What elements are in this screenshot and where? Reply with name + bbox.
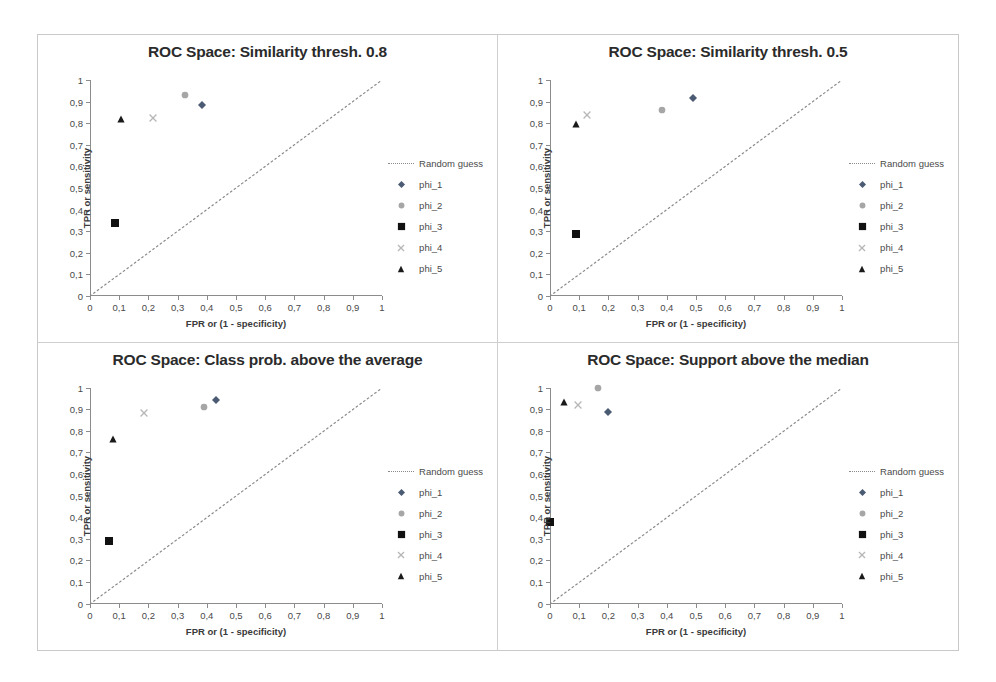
x-tick-label: 0,5 — [689, 302, 702, 313]
legend-item-phi_2[interactable]: phi_2 — [383, 195, 483, 216]
legend-label-random-guess: Random guess — [880, 466, 944, 477]
y-tick — [86, 582, 90, 583]
legend-item-phi_5[interactable]: phi_5 — [844, 258, 944, 279]
data-point-phi_2 — [200, 403, 208, 411]
random-guess-line — [550, 80, 842, 296]
x-tick — [813, 604, 814, 608]
legend-item-phi_4[interactable]: phi_4 — [844, 545, 944, 566]
chart-legend: Random guessphi_1phi_2phi_3phi_4phi_5 — [383, 153, 483, 279]
y-tick-label: 1 — [78, 75, 83, 86]
y-tick-label: 0,9 — [530, 404, 543, 415]
data-point-phi_4 — [148, 113, 157, 122]
dotted-line-icon — [383, 471, 419, 472]
y-tick — [86, 274, 90, 275]
y-tick — [546, 274, 550, 275]
cross-marker-icon — [383, 551, 419, 559]
legend-item-phi_3[interactable]: phi_3 — [844, 524, 944, 545]
x-tick — [207, 604, 208, 608]
legend-item-phi_1[interactable]: phi_1 — [383, 174, 483, 195]
legend-item-phi_3[interactable]: phi_3 — [844, 216, 944, 237]
x-tick-label: 1 — [839, 302, 844, 313]
x-tick — [90, 296, 91, 300]
x-axis-title: FPR or (1 - specificity) — [90, 318, 382, 329]
x-tick — [696, 604, 697, 608]
y-axis-title: TPR or sensitivity — [81, 148, 92, 228]
legend-item-phi_5[interactable]: phi_5 — [383, 258, 483, 279]
y-tick — [86, 539, 90, 540]
legend-item-random-guess[interactable]: Random guess — [844, 461, 944, 482]
legend-item-phi_2[interactable]: phi_2 — [844, 503, 944, 524]
y-tick-label: 0,2 — [70, 247, 83, 258]
y-tick-label: 1 — [538, 75, 543, 86]
x-tick-label: 0,1 — [113, 302, 126, 313]
legend-item-phi_2[interactable]: phi_2 — [383, 503, 483, 524]
x-tick — [754, 296, 755, 300]
plot-area: 00,10,20,30,40,50,60,70,80,9100,10,20,30… — [550, 80, 842, 296]
diamond-marker-icon — [383, 489, 419, 496]
x-tick — [725, 296, 726, 300]
x-tick — [382, 604, 383, 608]
chart-legend: Random guessphi_1phi_2phi_3phi_4phi_5 — [844, 461, 944, 587]
random-guess-line — [550, 388, 842, 604]
legend-item-phi_1[interactable]: phi_1 — [383, 482, 483, 503]
x-tick-label: 0,8 — [317, 610, 330, 621]
x-tick — [90, 604, 91, 608]
cross-marker-icon — [383, 244, 419, 252]
legend-label-phi_5: phi_5 — [419, 263, 442, 274]
legend-item-random-guess[interactable]: Random guess — [844, 153, 944, 174]
y-tick — [546, 145, 550, 146]
x-tick — [353, 604, 354, 608]
data-point-phi_4 — [140, 408, 149, 417]
x-tick — [638, 296, 639, 300]
legend-item-random-guess[interactable]: Random guess — [383, 153, 483, 174]
legend-item-phi_5[interactable]: phi_5 — [844, 566, 944, 587]
x-tick — [638, 604, 639, 608]
y-tick — [86, 123, 90, 124]
chart-legend: Random guessphi_1phi_2phi_3phi_4phi_5 — [383, 461, 483, 587]
x-tick — [324, 296, 325, 300]
x-tick — [265, 296, 266, 300]
circle-marker-icon — [383, 202, 419, 209]
x-tick-label: 0,2 — [142, 610, 155, 621]
triangle-marker-icon — [844, 265, 880, 273]
y-tick-label: 0 — [78, 291, 83, 302]
x-tick-label: 0 — [87, 302, 92, 313]
x-tick — [236, 604, 237, 608]
random-guess-line — [90, 388, 382, 604]
plot-area: 00,10,20,30,40,50,60,70,80,9100,10,20,30… — [90, 80, 382, 296]
x-tick-label: 0,3 — [631, 610, 644, 621]
legend-item-phi_4[interactable]: phi_4 — [383, 545, 483, 566]
y-tick — [546, 123, 550, 124]
legend-item-phi_1[interactable]: phi_1 — [844, 174, 944, 195]
legend-item-phi_2[interactable]: phi_2 — [844, 195, 944, 216]
roc-panel-4: ROC Space: Support above the median00,10… — [498, 343, 958, 651]
x-tick-label: 0,7 — [748, 302, 761, 313]
y-tick — [546, 231, 550, 232]
diamond-marker-icon — [844, 489, 880, 496]
legend-item-phi_5[interactable]: phi_5 — [383, 566, 483, 587]
legend-item-phi_4[interactable]: phi_4 — [844, 237, 944, 258]
y-tick-label: 0,8 — [530, 118, 543, 129]
y-tick — [546, 582, 550, 583]
x-tick — [579, 296, 580, 300]
legend-item-phi_4[interactable]: phi_4 — [383, 237, 483, 258]
legend-item-random-guess[interactable]: Random guess — [383, 461, 483, 482]
x-tick — [324, 604, 325, 608]
y-tick — [86, 145, 90, 146]
legend-item-phi_1[interactable]: phi_1 — [844, 482, 944, 503]
x-tick-label: 1 — [379, 302, 384, 313]
y-tick-label: 0,1 — [70, 269, 83, 280]
x-tick-label: 0,4 — [200, 302, 213, 313]
triangle-marker-icon — [383, 572, 419, 580]
data-point-phi_4 — [573, 400, 582, 409]
x-tick — [784, 296, 785, 300]
circle-marker-icon — [844, 202, 880, 209]
legend-item-phi_3[interactable]: phi_3 — [383, 216, 483, 237]
cross-marker-icon — [844, 244, 880, 252]
x-tick-label: 0,2 — [602, 610, 615, 621]
y-tick-label: 0 — [538, 598, 543, 609]
legend-item-phi_3[interactable]: phi_3 — [383, 524, 483, 545]
square-marker-icon — [383, 222, 419, 231]
dotted-line-icon — [844, 163, 880, 164]
data-point-phi_5 — [572, 120, 581, 129]
